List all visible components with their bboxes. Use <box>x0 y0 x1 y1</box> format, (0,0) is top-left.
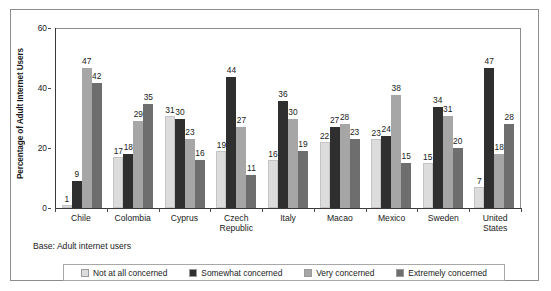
bar-value-label: 34 <box>433 96 442 104</box>
x-tick-mark <box>314 208 315 212</box>
bar: 34 <box>433 107 443 208</box>
legend-swatch-icon <box>189 269 197 277</box>
legend-label: Not at all concerned <box>93 268 168 278</box>
bar: 30 <box>288 119 298 209</box>
bar-value-label: 30 <box>288 108 297 116</box>
x-axis-tick-marks <box>55 208 521 212</box>
base-note: Base: Adult internet users <box>33 241 131 251</box>
bar: 31 <box>443 116 453 208</box>
bar-value-label: 35 <box>144 93 153 101</box>
bar: 44 <box>226 77 236 208</box>
x-axis-label: Macao <box>314 213 366 233</box>
x-tick-mark <box>469 208 470 212</box>
y-tick-label: 60 <box>38 23 47 33</box>
bar-value-label: 42 <box>92 72 101 80</box>
x-axis-label: Chile <box>55 213 107 233</box>
bar-value-label: 16 <box>268 150 277 158</box>
bar: 27 <box>330 127 340 208</box>
bar: 23 <box>371 139 381 208</box>
x-tick-mark <box>210 208 211 212</box>
legend-label: Very concerned <box>316 268 374 278</box>
bar-value-label: 24 <box>381 125 390 133</box>
bar-group: 19442711 <box>211 28 263 208</box>
bar: 7 <box>474 187 484 208</box>
bar-value-label: 28 <box>340 113 349 121</box>
legend-label: Extremely concerned <box>408 268 487 278</box>
bar: 24 <box>381 136 391 208</box>
bar-value-label: 19 <box>217 141 226 149</box>
x-tick-mark <box>159 208 160 212</box>
bar: 29 <box>133 121 143 208</box>
bar-value-label: 20 <box>453 137 462 145</box>
bar-value-label: 38 <box>391 84 400 92</box>
x-axis-labels: ChileColombiaCyprusCzechRepublicItalyMac… <box>55 213 521 233</box>
bar: 22 <box>320 142 330 208</box>
bar-value-label: 23 <box>185 128 194 136</box>
x-axis-label: Italy <box>262 213 314 233</box>
bar-group: 23243815 <box>365 28 417 208</box>
bar-group: 7471828 <box>469 28 521 208</box>
x-tick-mark <box>262 208 263 212</box>
y-tick-mark <box>48 28 51 29</box>
bar: 23 <box>350 139 360 208</box>
bar: 38 <box>391 95 401 208</box>
bar-value-label: 11 <box>247 164 256 172</box>
y-tick-mark <box>48 148 51 149</box>
bar-groups: 1947421718293531302316194427111636301922… <box>56 28 520 208</box>
axes-frame: 1947421718293531302316194427111636301922… <box>55 28 521 209</box>
bar: 35 <box>143 104 153 208</box>
bar-value-label: 19 <box>298 140 307 148</box>
x-tick-mark <box>417 208 418 212</box>
bar-value-label: 23 <box>350 128 359 136</box>
bar: 18 <box>494 154 504 208</box>
x-axis-label: UnitedStates <box>469 213 521 233</box>
legend-item[interactable]: Extremely concerned <box>396 268 487 278</box>
y-tick-mark <box>48 208 51 209</box>
bar: 17 <box>113 157 123 208</box>
bar-value-label: 44 <box>227 66 236 74</box>
bar-value-label: 18 <box>124 143 133 151</box>
bar: 9 <box>72 181 82 208</box>
bar-value-label: 15 <box>401 152 410 160</box>
y-axis-tick-labels: 0204060 <box>29 10 51 220</box>
y-tick-mark <box>48 88 51 89</box>
chart-figure: Percentage of Adult Internet Users 02040… <box>10 9 539 281</box>
bar-value-label: 27 <box>330 116 339 124</box>
bar: 16 <box>268 160 278 208</box>
bar: 31 <box>165 116 175 208</box>
bar-group: 194742 <box>56 28 108 208</box>
legend-item[interactable]: Somewhat concerned <box>189 268 282 278</box>
x-axis-label: Cyprus <box>159 213 211 233</box>
bar: 30 <box>175 119 185 209</box>
bar-value-label: 9 <box>74 170 79 178</box>
bar-value-label: 47 <box>82 57 91 65</box>
y-axis-title: Percentage of Adult Internet Users <box>13 18 29 210</box>
bar: 20 <box>453 148 463 208</box>
bar: 19 <box>216 151 226 208</box>
chart-legend: Not at all concernedSomewhat concernedVe… <box>63 264 505 281</box>
bar: 15 <box>423 163 433 208</box>
legend-item[interactable]: Very concerned <box>304 268 374 278</box>
bar-group: 31302316 <box>159 28 211 208</box>
bar-value-label: 1 <box>64 195 69 203</box>
bar: 27 <box>236 127 246 208</box>
x-axis-label: Colombia <box>107 213 159 233</box>
y-tick-label: 0 <box>42 203 47 213</box>
legend-swatch-icon <box>304 269 312 277</box>
axis-spine-right <box>520 28 521 209</box>
bar-value-label: 47 <box>485 57 494 65</box>
legend-item[interactable]: Not at all concerned <box>81 268 168 278</box>
bar-value-label: 17 <box>114 147 123 155</box>
bar: 28 <box>504 124 514 208</box>
legend-label: Somewhat concerned <box>201 268 282 278</box>
bar: 15 <box>401 163 411 208</box>
bar: 11 <box>246 175 256 208</box>
bar-value-label: 23 <box>371 129 380 137</box>
bar-value-label: 7 <box>477 177 482 185</box>
bar-value-label: 22 <box>320 132 329 140</box>
bar-value-label: 15 <box>423 153 432 161</box>
bar-value-label: 18 <box>495 143 504 151</box>
x-axis-label: CzechRepublic <box>210 213 262 233</box>
x-tick-mark <box>366 208 367 212</box>
bar-value-label: 27 <box>237 116 246 124</box>
